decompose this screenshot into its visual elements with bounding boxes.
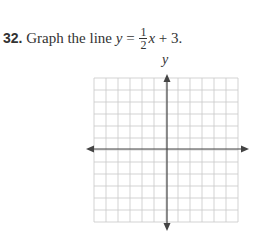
- grid-lines: [94, 78, 238, 222]
- y-axis-down-arrow-icon: [164, 223, 171, 231]
- coordinate-grid[interactable]: [0, 0, 255, 241]
- x-axis-right-arrow-icon: [241, 146, 249, 153]
- x-axis-left-arrow-icon: [86, 146, 94, 153]
